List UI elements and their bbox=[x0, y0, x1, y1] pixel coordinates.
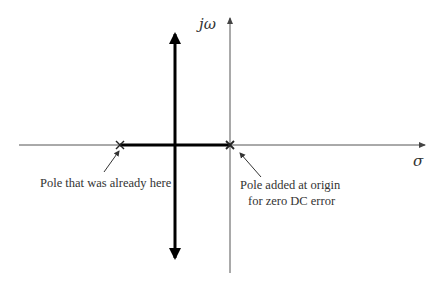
sigma-axis-label: σ bbox=[413, 152, 424, 170]
existing-pole-annotation: Pole that was already here bbox=[40, 176, 172, 190]
origin-pole-annotation-line1: Pole added at origin bbox=[240, 178, 341, 192]
jw-axis-label: jω bbox=[196, 15, 216, 33]
existing-pole-pointer bbox=[104, 151, 119, 172]
origin-pole-pointer bbox=[240, 153, 261, 177]
origin-pole-annotation-line2: for zero DC error bbox=[248, 194, 336, 208]
root-locus-diagram: jω σ Pole that was already here Pole add… bbox=[0, 0, 446, 284]
